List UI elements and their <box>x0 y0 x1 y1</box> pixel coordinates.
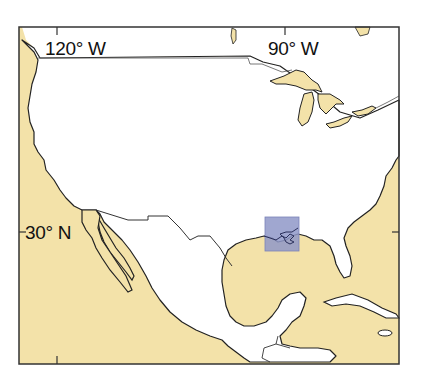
study-area-highlight[interactable] <box>265 217 299 251</box>
jamaica <box>378 330 392 336</box>
label-120w: 120° W <box>45 39 106 58</box>
label-30n: 30° N <box>25 223 71 242</box>
label-90w: 90° W <box>268 39 318 58</box>
